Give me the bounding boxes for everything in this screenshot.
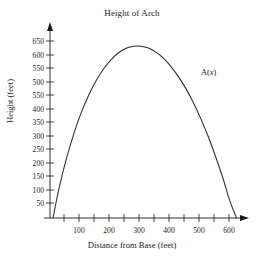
x-axis bbox=[44, 215, 249, 221]
y-axis-tick-labels: 650 600 550 500 550 400 350 300 250 200 … bbox=[33, 37, 45, 208]
x-axis-tick-labels: 100 200 300 400 500 600 bbox=[73, 226, 235, 235]
y-tick-label: 550 bbox=[33, 64, 45, 73]
curve-label: A(x) bbox=[201, 68, 217, 77]
y-tick-label: 200 bbox=[33, 159, 45, 168]
y-tick-label: 150 bbox=[33, 172, 45, 181]
y-tick-label: 300 bbox=[33, 132, 45, 141]
y-axis bbox=[47, 22, 53, 218]
x-axis-arrowhead bbox=[240, 215, 249, 221]
chart-figure: Height of Arch bbox=[0, 0, 264, 263]
y-tick-label: 100 bbox=[33, 186, 45, 195]
y-tick-label: 500 bbox=[33, 78, 45, 87]
y-tick-label: 250 bbox=[33, 145, 45, 154]
x-tick-label: 100 bbox=[73, 226, 85, 235]
arch-plot: 650 600 550 500 550 400 350 300 250 200 … bbox=[0, 0, 264, 263]
y-tick-label: 600 bbox=[33, 51, 45, 60]
x-tick-label: 600 bbox=[223, 226, 235, 235]
y-tick-label: 650 bbox=[33, 37, 45, 46]
x-tick-label: 500 bbox=[193, 226, 205, 235]
x-axis-title: Distance from Base (feet) bbox=[0, 240, 264, 250]
x-tick-label: 300 bbox=[133, 226, 145, 235]
curve-label-prefix: A( bbox=[201, 68, 210, 77]
y-axis-title: Height (feet) bbox=[5, 58, 15, 144]
x-tick-label: 200 bbox=[103, 226, 115, 235]
y-tick-label: 350 bbox=[33, 118, 45, 127]
x-tick-label: 400 bbox=[163, 226, 175, 235]
curve-label-suffix: ) bbox=[214, 68, 217, 77]
y-axis-arrowhead bbox=[47, 22, 53, 31]
y-tick-label: 550 bbox=[33, 91, 45, 100]
y-tick-label: 50 bbox=[36, 199, 44, 208]
y-tick-label: 400 bbox=[33, 105, 45, 114]
